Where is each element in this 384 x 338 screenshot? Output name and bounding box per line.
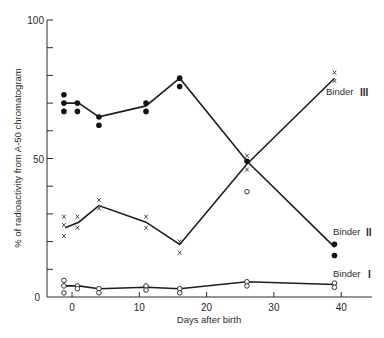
point-binder-ii [75, 109, 81, 115]
line-binder-i [65, 282, 334, 289]
point-binder-iii [144, 226, 148, 230]
point-binder-iii [333, 79, 337, 83]
y-tick-label: 100 [27, 15, 44, 26]
x-tick-label: 0 [69, 302, 75, 313]
x-tick-label: 30 [268, 302, 280, 313]
point-binder-iii [144, 215, 148, 219]
point-binder-iii [245, 154, 249, 158]
line-chart: 050100010203040 % of radioactivity from … [0, 0, 384, 338]
point-binder-ii [244, 158, 250, 164]
x-tick-label: 20 [201, 302, 213, 313]
point-binder-i [75, 286, 80, 291]
point-binder-i [97, 291, 102, 296]
y-tick-label: 50 [33, 154, 45, 165]
legend-label-binder-iii: Binder III [326, 86, 369, 98]
x-tick-label: 40 [336, 302, 348, 313]
point-binder-ii [143, 100, 149, 106]
point-binder-i [62, 291, 67, 296]
point-binder-ii [177, 84, 183, 90]
axes: 050100010203040 [27, 15, 372, 313]
point-binder-ii [332, 242, 338, 248]
binder-iii-numeral: III [360, 87, 369, 98]
binder-i-numeral: I [368, 269, 371, 280]
point-binder-i [332, 285, 337, 290]
point-binder-iii [76, 215, 80, 219]
binder-i-label: Binder [333, 268, 360, 279]
point-binder-ii [143, 109, 149, 115]
y-tick-label: 0 [34, 292, 40, 303]
point-binder-ii [61, 92, 67, 98]
point-binder-iii [97, 206, 101, 210]
x-axis-label: Days after birth [177, 314, 241, 325]
binder-iii-label: Binder [326, 86, 353, 97]
point-binder-iii [76, 226, 80, 230]
line-binder-ii [65, 78, 334, 247]
point-binder-iii [178, 251, 182, 255]
point-binder-ii [177, 75, 183, 81]
legend-label-binder-i: Binder I [333, 268, 371, 280]
point-binder-ii [75, 100, 81, 106]
point-binder-ii [332, 253, 338, 259]
x-tick-label: 10 [134, 302, 146, 313]
point-binder-iii [97, 198, 101, 202]
point-binder-ii [61, 100, 67, 106]
point-binder-ii [61, 109, 67, 115]
point-binder-iii [178, 240, 182, 244]
binder-ii-numeral: II [366, 227, 372, 238]
point-binder-iii [62, 234, 66, 238]
point-binder-i [62, 278, 67, 283]
binder-ii-label: Binder [333, 226, 360, 237]
point-binder-i [245, 284, 250, 289]
legend-label-binder-ii: Binder II [333, 226, 372, 238]
point-binder-i [245, 189, 250, 194]
point-binder-ii [96, 122, 102, 128]
point-binder-i [177, 291, 182, 296]
point-binder-iii [62, 223, 66, 227]
point-binder-iii [245, 168, 249, 172]
data-markers [61, 71, 337, 296]
point-binder-i [144, 288, 149, 293]
point-binder-iii [333, 71, 337, 75]
point-binder-iii [62, 215, 66, 219]
y-axis-label: % of radioactivity from A-50 chromatogra… [12, 68, 23, 248]
point-binder-ii [96, 114, 102, 120]
series-lines [65, 78, 334, 289]
point-binder-i [62, 284, 67, 289]
